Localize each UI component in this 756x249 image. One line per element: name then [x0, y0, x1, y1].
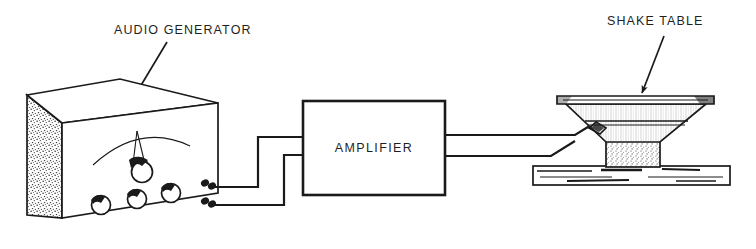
amplifier[interactable]: AMPLIFIER	[303, 101, 445, 195]
audio-generator-label: AUDIO GENERATOR	[114, 23, 252, 37]
wood-grain-3	[662, 169, 700, 170]
shake-table-label: SHAKE TABLE	[607, 14, 703, 28]
equipment-setup-diagram: AUDIO GENERATOR SHAKE TABLE	[0, 0, 756, 249]
wood-grain-5	[567, 180, 629, 181]
magnet-base-texture	[606, 140, 660, 167]
wood-board	[533, 166, 730, 185]
amplifier-text: AMPLIFIER	[335, 141, 414, 155]
audio-generator[interactable]	[27, 79, 218, 218]
diagram-canvas: AUDIO GENERATOR SHAKE TABLE	[0, 0, 756, 249]
